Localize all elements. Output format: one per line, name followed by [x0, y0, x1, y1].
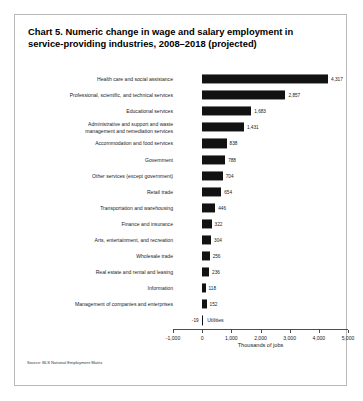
bar: [202, 252, 209, 261]
bar-row: Educational services1,683: [15, 103, 348, 119]
x-axis-ticks: -1,00001,0002,0003,0004,0005,000: [173, 330, 348, 342]
bar-track: 838: [173, 135, 348, 151]
bar-row: Arts, entertainment, and recreation304: [15, 232, 348, 248]
bar-category-label: Management of companies and enterprises: [23, 301, 173, 307]
bar-value-label: 838: [230, 141, 238, 146]
chart-number: Chart 5.: [28, 26, 63, 37]
bar-category-label: Information: [23, 285, 173, 291]
bar-track: 322: [173, 216, 348, 232]
x-tick-mark: [261, 330, 262, 333]
bar-category-label: Retail trade: [23, 189, 173, 195]
x-tick-mark: [231, 330, 232, 333]
bar-value-label: 304: [214, 237, 222, 242]
bar: [202, 75, 328, 84]
bar-track: 1,431: [173, 119, 348, 135]
chart-title: Chart 5. Numeric change in wage and sala…: [28, 26, 328, 51]
source-note: Source: BLS National Employment Matrix: [27, 360, 102, 365]
bar-track: 1,683: [173, 103, 348, 119]
x-tick-mark: [173, 330, 174, 333]
bar: [202, 171, 223, 180]
bar: [202, 139, 226, 148]
bar: [202, 284, 205, 293]
bar: [202, 300, 206, 309]
bar-value-label: 118: [209, 286, 216, 291]
bar-track: 4,317: [173, 71, 348, 87]
bar: [202, 235, 211, 244]
bar-row: Other services (except government)704: [15, 168, 348, 184]
bar-category-label: Administrative and support and waste man…: [23, 121, 173, 133]
bar: [202, 123, 244, 132]
bar-row: Accommodation and food services838: [15, 135, 348, 151]
x-axis-label: Thousands of jobs: [173, 342, 348, 348]
x-tick-label: 3,000: [283, 335, 296, 341]
bar-category-label: Educational services: [23, 108, 173, 114]
chart-figure: Chart 5. Numeric change in wage and sala…: [14, 14, 347, 386]
bar-category-label: Finance and insurance: [23, 221, 173, 227]
bar-value-label: 1,431: [247, 125, 259, 130]
bar-row: Professional, scientific, and technical …: [15, 87, 348, 103]
bar-value-label: -19: [192, 318, 199, 323]
bar-row: Management of companies and enterprises1…: [15, 296, 348, 312]
bar-value-label: 322: [215, 221, 223, 226]
bar-value-label: 704: [226, 173, 234, 178]
x-tick-label: 2,000: [254, 335, 267, 341]
bar-track: -19Utilities: [173, 312, 348, 328]
bar-row: Information118: [15, 280, 348, 296]
bar-category-label-inline: Utilities: [207, 317, 223, 323]
bar-value-label: 1,683: [254, 109, 266, 114]
x-tick-mark: [348, 330, 349, 333]
bar-category-label: Wholesale trade: [23, 253, 173, 259]
bar-value-label: 4,317: [331, 77, 343, 82]
bar-track: 304: [173, 232, 348, 248]
bar-track: 152: [173, 296, 348, 312]
bar-row: Finance and insurance322: [15, 216, 348, 232]
chart-title-text: Numeric change in wage and salary employ…: [28, 26, 293, 49]
bar-value-label: 788: [228, 157, 236, 162]
x-tick-mark: [290, 330, 291, 333]
bar-category-label: Arts, entertainment, and recreation: [23, 237, 173, 243]
bar-row: Transportation and warehousing446: [15, 200, 348, 216]
x-tick-mark: [319, 330, 320, 333]
x-tick-label: 4,000: [312, 335, 325, 341]
bar: [202, 268, 209, 277]
bar-track: 704: [173, 168, 348, 184]
x-tick-label: 0: [201, 335, 204, 341]
bar-row: Health care and social assistance4,317: [15, 71, 348, 87]
bar-track: 236: [173, 264, 348, 280]
bar-value-label: 256: [213, 254, 221, 259]
bar: [202, 219, 211, 228]
bar: [202, 316, 203, 325]
bar-value-label: 236: [212, 270, 220, 275]
bar-track: 654: [173, 184, 348, 200]
x-tick-mark: [202, 330, 203, 333]
bar-value-label: 2,857: [288, 93, 300, 98]
bar: [202, 155, 225, 164]
bar: [202, 91, 285, 100]
x-tick-label: 5,000: [342, 335, 355, 341]
bar-row: Retail trade654: [15, 184, 348, 200]
bar-value-label: 446: [218, 205, 226, 210]
bar: [202, 187, 221, 196]
bar-category-label: Health care and social assistance: [23, 76, 173, 82]
bar: [202, 107, 251, 116]
bar-value-label: 152: [210, 302, 218, 307]
bar-track: 788: [173, 151, 348, 167]
bar-category-label: Professional, scientific, and technical …: [23, 92, 173, 98]
x-tick-label: 1,000: [225, 335, 238, 341]
bar-row: Wholesale trade256: [15, 248, 348, 264]
bar-value-label: 654: [224, 189, 232, 194]
bar-category-label: Transportation and warehousing: [23, 205, 173, 211]
bar-row: Administrative and support and waste man…: [15, 119, 348, 135]
bar-row: Real estate and rental and leasing236: [15, 264, 348, 280]
bar-category-label: Accommodation and food services: [23, 140, 173, 146]
bar-track: 118: [173, 280, 348, 296]
bar: [202, 203, 215, 212]
x-tick-label: -1,000: [166, 335, 180, 341]
bar-row: -19Utilities: [15, 312, 348, 328]
bar-row: Government788: [15, 151, 348, 167]
bar-category-label: Other services (except government): [23, 173, 173, 179]
bar-track: 446: [173, 200, 348, 216]
bar-track: 2,857: [173, 87, 348, 103]
bar-category-label: Real estate and rental and leasing: [23, 269, 173, 275]
bar-track: 256: [173, 248, 348, 264]
